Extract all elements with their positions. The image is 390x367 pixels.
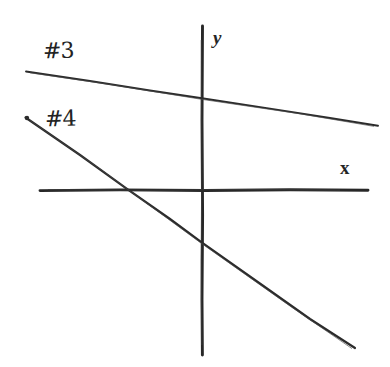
x-axis-label: x xyxy=(340,158,350,177)
y-axis-label: y xyxy=(213,28,221,47)
graph-figure: #3 #4 y x xyxy=(0,0,390,367)
x-axis-line xyxy=(40,190,368,191)
line-label-3: #3 xyxy=(43,39,74,62)
line-label-4: #4 xyxy=(45,107,76,130)
